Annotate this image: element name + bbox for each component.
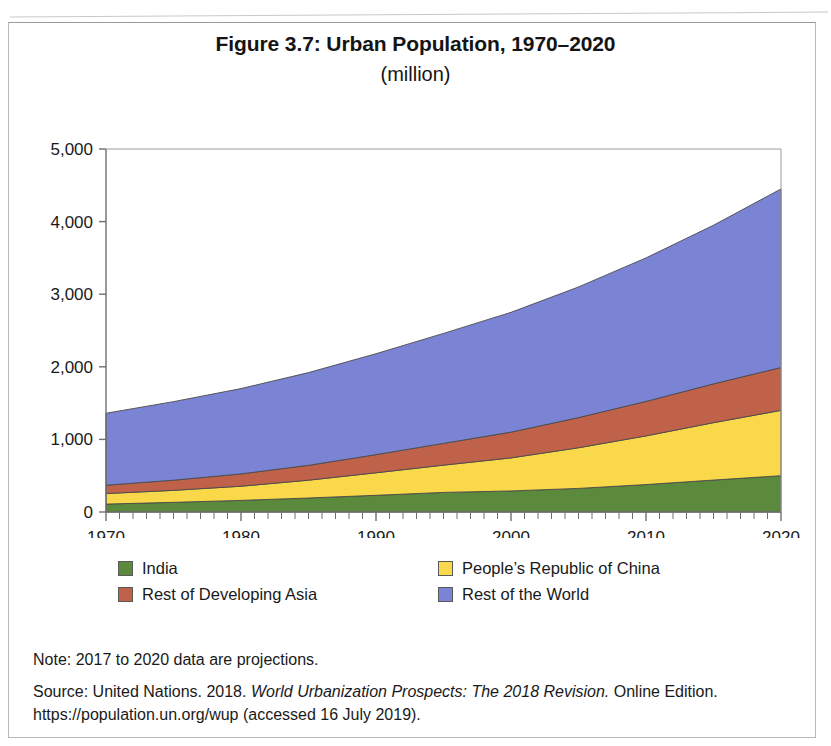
chart-container: 01,0002,0003,0004,0005,000 1970198019902…	[22, 128, 812, 538]
stacked-area-chart: 01,0002,0003,0004,0005,000 1970198019902…	[22, 128, 812, 538]
legend-item-rest-of-world: Rest of the World	[438, 586, 788, 603]
note-text: Note: 2017 to 2020 data are projections.	[33, 648, 803, 671]
svg-text:2020: 2020	[762, 528, 800, 538]
source-title-italic: World Urbanization Prospects: The 2018 R…	[251, 683, 609, 700]
legend-swatch-icon	[118, 561, 133, 576]
page-title: Figure 3.7: Urban Population, 1970–2020	[0, 30, 831, 58]
svg-text:2010: 2010	[627, 528, 665, 538]
svg-text:1,000: 1,000	[50, 430, 93, 449]
svg-text:1980: 1980	[222, 528, 260, 538]
figure-subtitle: (million)	[0, 60, 831, 88]
legend-swatch-icon	[438, 587, 453, 602]
legend-swatch-icon	[118, 587, 133, 602]
figure-title-block: Figure 3.7: Urban Population, 1970–2020 …	[0, 30, 831, 88]
legend-label: Rest of the World	[462, 586, 589, 603]
source-prefix: Source: United Nations. 2018.	[33, 683, 251, 700]
source-suffix: Online Edition.	[609, 683, 718, 700]
x-axis-ticks: 197019801990200020102020	[87, 512, 800, 538]
legend-label: Rest of Developing Asia	[142, 586, 317, 603]
scan-artifact-line	[10, 12, 828, 18]
svg-text:1970: 1970	[87, 528, 125, 538]
legend-item-rest-developing-asia: Rest of Developing Asia	[118, 586, 438, 603]
svg-text:0: 0	[84, 503, 93, 522]
legend-swatch-icon	[438, 561, 453, 576]
legend-label: People’s Republic of China	[462, 560, 660, 577]
chart-legend: India People’s Republic of China Rest of…	[118, 560, 798, 612]
figure-notes: Note: 2017 to 2020 data are projections.…	[33, 648, 803, 726]
svg-text:2000: 2000	[492, 528, 530, 538]
svg-text:3,000: 3,000	[50, 285, 93, 304]
svg-text:2,000: 2,000	[50, 358, 93, 377]
legend-row: India People’s Republic of China	[118, 560, 798, 577]
legend-item-prc: People’s Republic of China	[438, 560, 788, 577]
legend-label: India	[142, 560, 178, 577]
y-axis-ticks: 01,0002,0003,0004,0005,000	[50, 140, 106, 522]
svg-text:5,000: 5,000	[50, 140, 93, 159]
legend-item-india: India	[118, 560, 438, 577]
source-text: Source: United Nations. 2018. World Urba…	[33, 680, 803, 703]
legend-row: Rest of Developing Asia Rest of the Worl…	[118, 586, 798, 603]
figure-page: Figure 3.7: Urban Population, 1970–2020 …	[0, 0, 831, 746]
svg-text:1990: 1990	[357, 528, 395, 538]
source-url-text: https://population.un.org/wup (accessed …	[33, 703, 803, 726]
svg-text:4,000: 4,000	[50, 213, 93, 232]
